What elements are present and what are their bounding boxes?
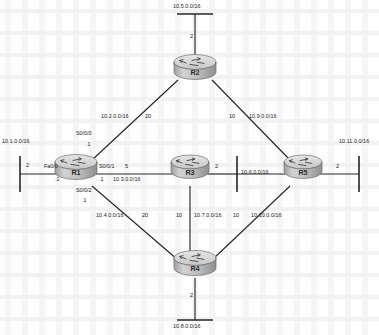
network-label-10-10: 10.10.0.0/16 (251, 213, 282, 218)
ip-label-r1-s0-0-2: .1 (82, 198, 87, 203)
router-label-r3: R3 (176, 169, 204, 176)
network-label-10-6: 10.6.0.0/16 (241, 170, 269, 175)
ip-label-r1-fa0-0: .1 (55, 177, 60, 182)
cost-label-10-7-left: 10 (176, 213, 182, 219)
router-label-r4: R4 (181, 265, 209, 272)
interface-label-r1-fa0-0: Fa0/0 (44, 164, 58, 169)
network-label-10-8: 10.8.0.0/16 (173, 324, 201, 329)
link-r2-r5 (212, 80, 290, 160)
link-r1-r2 (92, 80, 178, 160)
ip-label-r1-s0-0-1: .1 (99, 177, 104, 182)
network-label-10-9: 10.9.0.0/16 (249, 114, 277, 119)
network-label-10-7: 10.7.0.0/16 (194, 213, 222, 218)
network-label-10-1: 10.1.0.0/16 (2, 139, 30, 144)
network-label-10-11: 10.11.0.0/16 (339, 139, 369, 144)
interface-label-r1-s0-0-0: S0/0/0 (76, 131, 92, 136)
network-label-10-4: 10.4.0.0/16 (96, 213, 124, 218)
cost-label-10-3: 5 (125, 164, 128, 170)
router-label-r1: R1 (62, 169, 90, 176)
cost-label-10-2: 20 (145, 114, 151, 120)
cost-label-10-8: 2 (190, 293, 193, 299)
network-topology-diagram: R1 R2 R3 R4 R5 10.5.0.0/16 2 10.2.0.0/16… (0, 0, 379, 335)
cost-label-10-4: 20 (142, 213, 148, 219)
network-label-10-5: 10.5.0.0/16 (173, 4, 201, 9)
link-r1-r4 (92, 186, 178, 260)
cost-label-10-6: 2 (215, 164, 218, 170)
cost-label-10-11: 2 (336, 164, 339, 170)
interface-label-r1-s0-0-1: S0/0/1 (99, 164, 115, 169)
cost-label-10-5: 2 (190, 34, 193, 40)
network-label-10-3: 10.3.0.0/16 (113, 177, 141, 182)
router-label-r2: R2 (181, 69, 209, 76)
cost-label-10-1: 2 (26, 163, 29, 169)
network-label-10-2: 10.2.0.0/16 (101, 114, 129, 119)
router-label-r5: R5 (289, 169, 317, 176)
interface-label-r1-s0-0-2: S0/0/2 (76, 188, 92, 193)
cost-label-10-7-right: 10 (233, 213, 239, 219)
link-r4-r5 (212, 186, 290, 260)
cost-label-10-9: 10 (229, 114, 235, 120)
ip-label-r1-s0-0-0: .1 (86, 142, 91, 147)
